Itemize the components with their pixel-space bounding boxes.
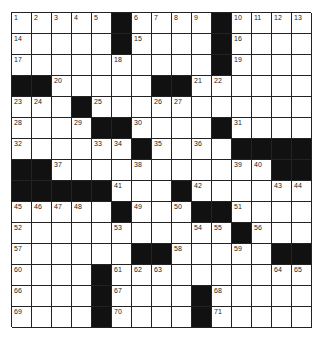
- grid-cell[interactable]: 47: [52, 202, 72, 223]
- grid-cell[interactable]: [152, 160, 172, 181]
- grid-cell[interactable]: [232, 97, 252, 118]
- grid-cell[interactable]: 46: [32, 202, 52, 223]
- grid-cell[interactable]: [292, 118, 312, 139]
- grid-cell[interactable]: [72, 139, 92, 160]
- grid-cell[interactable]: [72, 55, 92, 76]
- grid-cell[interactable]: 19: [232, 55, 252, 76]
- grid-cell[interactable]: [152, 286, 172, 307]
- grid-cell[interactable]: 63: [152, 265, 172, 286]
- grid-cell[interactable]: [52, 118, 72, 139]
- grid-cell[interactable]: [132, 76, 152, 97]
- grid-cell[interactable]: [112, 97, 132, 118]
- grid-cell[interactable]: [52, 139, 72, 160]
- grid-cell[interactable]: [192, 34, 212, 55]
- grid-cell[interactable]: [272, 286, 292, 307]
- grid-cell[interactable]: [252, 97, 272, 118]
- grid-cell[interactable]: 62: [132, 265, 152, 286]
- grid-cell[interactable]: 12: [272, 13, 292, 34]
- grid-cell[interactable]: [292, 223, 312, 244]
- grid-cell[interactable]: 32: [12, 139, 32, 160]
- grid-cell[interactable]: [92, 76, 112, 97]
- grid-cell[interactable]: [252, 55, 272, 76]
- grid-cell[interactable]: 2: [32, 13, 52, 34]
- grid-cell[interactable]: 70: [112, 307, 132, 328]
- grid-cell[interactable]: [112, 160, 132, 181]
- grid-cell[interactable]: [52, 223, 72, 244]
- grid-cell[interactable]: [72, 223, 92, 244]
- grid-cell[interactable]: [212, 265, 232, 286]
- grid-cell[interactable]: [272, 76, 292, 97]
- grid-cell[interactable]: [272, 55, 292, 76]
- grid-cell[interactable]: [292, 286, 312, 307]
- grid-cell[interactable]: [292, 34, 312, 55]
- grid-cell[interactable]: [272, 223, 292, 244]
- grid-cell[interactable]: 17: [12, 55, 32, 76]
- grid-cell[interactable]: [272, 118, 292, 139]
- grid-cell[interactable]: [292, 76, 312, 97]
- grid-cell[interactable]: 42: [192, 181, 212, 202]
- grid-cell[interactable]: 40: [252, 160, 272, 181]
- grid-cell[interactable]: 24: [32, 97, 52, 118]
- grid-cell[interactable]: [112, 244, 132, 265]
- grid-cell[interactable]: [252, 265, 272, 286]
- grid-cell[interactable]: [52, 34, 72, 55]
- grid-cell[interactable]: [32, 265, 52, 286]
- grid-cell[interactable]: 48: [72, 202, 92, 223]
- grid-cell[interactable]: [252, 34, 272, 55]
- grid-cell[interactable]: [132, 55, 152, 76]
- grid-cell[interactable]: [72, 307, 92, 328]
- grid-cell[interactable]: [212, 181, 232, 202]
- grid-cell[interactable]: 26: [152, 97, 172, 118]
- grid-cell[interactable]: [172, 34, 192, 55]
- grid-cell[interactable]: [112, 76, 132, 97]
- grid-cell[interactable]: [52, 55, 72, 76]
- grid-cell[interactable]: [292, 55, 312, 76]
- grid-cell[interactable]: [52, 286, 72, 307]
- grid-cell[interactable]: 21: [192, 76, 212, 97]
- grid-cell[interactable]: [192, 160, 212, 181]
- grid-cell[interactable]: [272, 97, 292, 118]
- grid-cell[interactable]: [172, 307, 192, 328]
- grid-cell[interactable]: 9: [192, 13, 212, 34]
- grid-cell[interactable]: 60: [12, 265, 32, 286]
- grid-cell[interactable]: [72, 160, 92, 181]
- grid-cell[interactable]: 7: [152, 13, 172, 34]
- grid-cell[interactable]: 52: [12, 223, 32, 244]
- grid-cell[interactable]: 31: [232, 118, 252, 139]
- grid-cell[interactable]: 37: [52, 160, 72, 181]
- grid-cell[interactable]: [252, 118, 272, 139]
- grid-cell[interactable]: 54: [192, 223, 212, 244]
- grid-cell[interactable]: [272, 202, 292, 223]
- grid-cell[interactable]: 25: [92, 97, 112, 118]
- grid-cell[interactable]: 55: [212, 223, 232, 244]
- grid-cell[interactable]: [252, 181, 272, 202]
- grid-cell[interactable]: [232, 265, 252, 286]
- grid-cell[interactable]: 61: [112, 265, 132, 286]
- grid-cell[interactable]: 23: [12, 97, 32, 118]
- grid-cell[interactable]: 35: [152, 139, 172, 160]
- grid-cell[interactable]: [152, 118, 172, 139]
- grid-cell[interactable]: 11: [252, 13, 272, 34]
- grid-cell[interactable]: [212, 139, 232, 160]
- grid-cell[interactable]: 14: [12, 34, 32, 55]
- grid-cell[interactable]: [92, 55, 112, 76]
- grid-cell[interactable]: 44: [292, 181, 312, 202]
- grid-cell[interactable]: [32, 34, 52, 55]
- grid-cell[interactable]: 1: [12, 13, 32, 34]
- grid-cell[interactable]: 33: [92, 139, 112, 160]
- grid-cell[interactable]: [232, 181, 252, 202]
- grid-cell[interactable]: 71: [212, 307, 232, 328]
- grid-cell[interactable]: [32, 139, 52, 160]
- grid-cell[interactable]: [212, 244, 232, 265]
- grid-cell[interactable]: 27: [172, 97, 192, 118]
- grid-cell[interactable]: [32, 286, 52, 307]
- grid-cell[interactable]: [172, 139, 192, 160]
- grid-cell[interactable]: 66: [12, 286, 32, 307]
- grid-cell[interactable]: [72, 76, 92, 97]
- grid-cell[interactable]: [252, 202, 272, 223]
- grid-cell[interactable]: 3: [52, 13, 72, 34]
- grid-cell[interactable]: 51: [232, 202, 252, 223]
- grid-cell[interactable]: [52, 244, 72, 265]
- grid-cell[interactable]: [152, 55, 172, 76]
- grid-cell[interactable]: 59: [232, 244, 252, 265]
